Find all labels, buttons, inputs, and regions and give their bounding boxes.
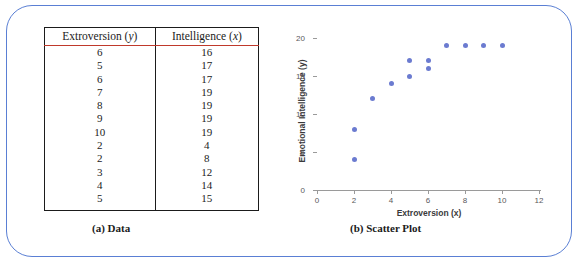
x-tick-mark xyxy=(317,190,318,194)
y-tick-label: 10 xyxy=(296,110,305,119)
cell-intelligence: 8 xyxy=(155,152,258,165)
x-tick-label: 12 xyxy=(535,196,544,205)
table-header: Extroversion (y) Intelligence (x) xyxy=(45,28,259,46)
table-row: 819 xyxy=(45,99,259,112)
cell-extroversion: 6 xyxy=(45,46,156,60)
table-row: 719 xyxy=(45,86,259,99)
x-tick-mark xyxy=(502,190,503,194)
cell-intelligence: 19 xyxy=(155,112,258,125)
x-tick-mark xyxy=(391,190,392,194)
table-row: 517 xyxy=(45,59,259,72)
table-row: 414 xyxy=(45,179,259,192)
column-header-intelligence-name: Intelligence xyxy=(172,30,226,42)
column-header-extroversion: Extroversion (y) xyxy=(45,28,156,46)
x-tick-label: 4 xyxy=(389,196,393,205)
cell-extroversion: 8 xyxy=(45,99,156,112)
caption-data: (a) Data xyxy=(92,222,130,234)
table-row: 515 xyxy=(45,192,259,210)
column-header-extroversion-name: Extroversion xyxy=(62,30,121,42)
cell-intelligence: 16 xyxy=(155,46,258,60)
data-point xyxy=(426,58,431,63)
cell-extroversion: 9 xyxy=(45,112,156,125)
cell-extroversion: 5 xyxy=(45,192,156,210)
cell-intelligence: 14 xyxy=(155,179,258,192)
table-row: 617 xyxy=(45,73,259,86)
data-point xyxy=(407,58,412,63)
cell-intelligence: 4 xyxy=(155,139,258,152)
table-row: 312 xyxy=(45,166,259,179)
cell-extroversion: 6 xyxy=(45,73,156,86)
caption-scatter-plot: (b) Scatter Plot xyxy=(350,222,421,234)
x-tick-label: 6 xyxy=(426,196,430,205)
x-axis-line xyxy=(317,190,541,191)
data-point xyxy=(407,74,412,79)
x-tick-label: 2 xyxy=(352,196,356,205)
x-axis-label: Extroversion (x) xyxy=(317,208,541,218)
x-tick-label: 10 xyxy=(498,196,507,205)
x-tick-mark xyxy=(428,190,429,194)
scatter-plot-panel: Emotional Intelligence (y) 05101520 0246… xyxy=(283,30,553,215)
cell-extroversion: 3 xyxy=(45,166,156,179)
cell-intelligence: 15 xyxy=(155,192,258,210)
data-point xyxy=(481,43,486,48)
data-point xyxy=(500,43,505,48)
data-point xyxy=(444,43,449,48)
cell-intelligence: 19 xyxy=(155,86,258,99)
column-header-intelligence: Intelligence (x) xyxy=(155,28,258,46)
cell-intelligence: 19 xyxy=(155,99,258,112)
cell-intelligence: 17 xyxy=(155,59,258,72)
x-tick-mark xyxy=(354,190,355,194)
figure-container: Extroversion (y) Intelligence (x) 616517… xyxy=(0,0,584,271)
table-row: 28 xyxy=(45,152,259,165)
table-body: 61651761771981991910192428312414515 xyxy=(45,46,259,211)
y-tick-label: 15 xyxy=(296,72,305,81)
cell-extroversion: 2 xyxy=(45,152,156,165)
column-header-extroversion-symbol: y xyxy=(128,30,133,42)
cell-extroversion: 4 xyxy=(45,179,156,192)
data-point xyxy=(389,81,394,86)
data-point xyxy=(352,157,357,162)
data-point xyxy=(370,96,375,101)
x-tick-mark xyxy=(465,190,466,194)
y-tick-label: 5 xyxy=(301,148,305,157)
data-table: Extroversion (y) Intelligence (x) 616517… xyxy=(44,27,259,211)
data-point xyxy=(463,43,468,48)
column-header-intelligence-symbol: x xyxy=(233,30,238,42)
cell-extroversion: 2 xyxy=(45,139,156,152)
data-point xyxy=(352,127,357,132)
plot-area xyxy=(317,38,539,190)
cell-intelligence: 17 xyxy=(155,73,258,86)
data-table-panel: Extroversion (y) Intelligence (x) 616517… xyxy=(44,27,259,211)
table-row: 616 xyxy=(45,46,259,60)
cell-extroversion: 7 xyxy=(45,86,156,99)
cell-extroversion: 10 xyxy=(45,126,156,139)
x-tick-label: 8 xyxy=(463,196,467,205)
data-point xyxy=(426,66,431,71)
cell-extroversion: 5 xyxy=(45,59,156,72)
cell-intelligence: 12 xyxy=(155,166,258,179)
x-tick-mark xyxy=(539,190,540,194)
x-tick-label: 0 xyxy=(315,196,319,205)
y-tick-label: 20 xyxy=(296,34,305,43)
table-header-row: Extroversion (y) Intelligence (x) xyxy=(45,28,259,46)
table-row: 919 xyxy=(45,112,259,125)
cell-intelligence: 19 xyxy=(155,126,258,139)
y-tick-label: 0 xyxy=(301,186,305,195)
table-row: 24 xyxy=(45,139,259,152)
table-row: 1019 xyxy=(45,126,259,139)
